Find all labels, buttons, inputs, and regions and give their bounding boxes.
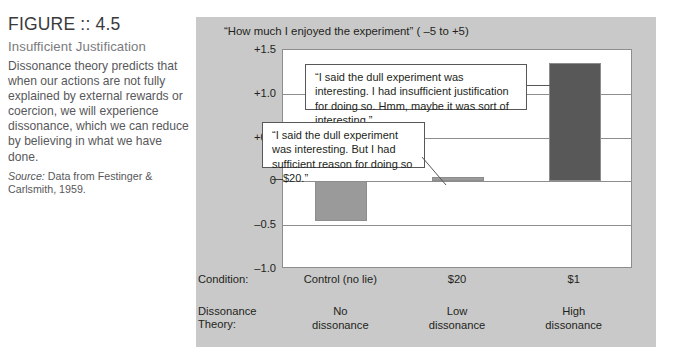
row-label-condition: Condition: — [198, 273, 248, 287]
bar-control-no-lie — [315, 181, 367, 220]
figure-panel: “How much I enjoyed the experiment” ( –5… — [196, 17, 656, 347]
callout-dollar1-leader-line — [527, 85, 559, 86]
callout-dollar20-leader-line — [422, 157, 462, 192]
callout-dollar1: “I said the dull experiment was interest… — [305, 64, 527, 110]
figure-caption-column: FIGURE :: 4.5 Insufficient Justification… — [8, 14, 190, 196]
y-axis-tick-label: +1.5 — [206, 43, 282, 55]
bar-1 — [549, 63, 601, 181]
dissonance-theory-label-2-line1: High — [499, 305, 649, 319]
y-axis-tick-label: +1.0 — [206, 87, 282, 99]
figure-description: Dissonance theory predicts that when our… — [8, 59, 190, 165]
chart-title: “How much I enjoyed the experiment” ( –5… — [224, 25, 469, 37]
source-label: Source: — [8, 170, 45, 182]
figure-subtitle: Insufficient Justification — [8, 39, 190, 54]
y-axis-tick-label: 0 — [206, 174, 282, 186]
gridline — [283, 225, 631, 226]
dissonance-theory-label-2: Highdissonance — [499, 305, 649, 332]
figure-title: FIGURE :: 4.5 — [8, 14, 190, 35]
y-axis-tick-label: –0.5 — [206, 218, 282, 230]
callout-dollar20: “I said the dull experiment was interest… — [262, 122, 425, 168]
dissonance-theory-label-2-line2: dissonance — [499, 319, 649, 333]
row-label-dissonance-theory-line1: Dissonance — [198, 305, 256, 319]
condition-label-2: $1 — [499, 273, 649, 287]
row-label-dissonance-theory-line2: Theory: — [198, 318, 236, 332]
figure-source: Source: Data from Festinger & Carlsmith,… — [8, 170, 190, 197]
